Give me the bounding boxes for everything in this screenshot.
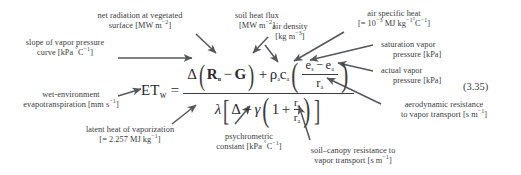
callout-wet-environment-line2: evapotranspiration [mm s−1] <box>4 100 138 110</box>
callout-air-specific-heat-line1: air specific heat <box>328 9 460 19</box>
inner-fraction-bar <box>302 74 338 75</box>
callout-soil-heat-flux-line1: soil heat flux <box>212 11 302 21</box>
callout-wet-environment-evapotranspiration: wet-environment evapotranspiration [mm s… <box>4 90 138 111</box>
net-radiation-symbol: Rn <box>207 66 221 83</box>
callout-actual-vapor-line2: pressure [kPa] <box>381 76 511 86</box>
plus-sign-resistance: + <box>279 101 292 118</box>
minus-sign: − <box>221 66 234 83</box>
callout-actual-vapor-pressure: actual vapor pressure [kPa] <box>381 66 511 87</box>
callout-saturation-vapor-line1: saturation vapor <box>381 40 511 50</box>
callout-air-density-line2: [kg m−3] <box>258 32 322 42</box>
saturation-vapor-symbol: es <box>306 58 314 72</box>
callout-aerodynamic-resistance-line2: to vapor transport [s m−1] <box>370 110 518 120</box>
one-constant: 1 <box>272 101 280 118</box>
resistance-fraction-bar <box>294 109 300 110</box>
callout-latent-heat-line2: [= 2.257 MJ kg−1] <box>62 135 198 145</box>
delta-symbol: Δ <box>187 66 197 83</box>
callout-soil-canopy-line2: vapor transport [s m−1] <box>280 156 426 166</box>
callout-air-specific-heat-line2: [= 10−3 MJ kg−1°C−1] <box>328 19 460 29</box>
callout-psychrometric-line1: psychrometric <box>196 132 302 142</box>
air-density-symbol: ρa <box>270 66 280 83</box>
resistance-ratio-fraction: rs ra <box>294 96 300 123</box>
numerator: Δ ( Rn − G ) + ρa ca ( es−ea ra ) <box>183 58 354 92</box>
callout-wet-environment-line1: wet-environment <box>4 90 138 100</box>
actual-vapor-symbol: ea <box>326 58 334 72</box>
vapor-deficit-fraction: es−ea ra <box>302 58 338 91</box>
callout-air-specific-heat: air specific heat [= 10−3 MJ kg−1°C−1] <box>328 9 460 30</box>
equation-lhs: ETw <box>141 82 170 99</box>
soil-heat-flux-symbol: G <box>234 66 246 83</box>
equals-sign: = <box>170 82 183 99</box>
callout-net-radiation-line2: surface [MW m−2] <box>80 21 200 31</box>
denominator: λ [ Δ + γ ( 1 + rs ra ) ] <box>211 95 327 123</box>
callout-air-density: air density [kg m−3] <box>258 22 322 43</box>
callout-slope-vapor-pressure-curve: slope of vapor pressure curve [kPa °C−1] <box>10 38 120 59</box>
callout-latent-heat-of-vaporization: latent heat of vaporization [= 2.257 MJ … <box>62 125 198 146</box>
callout-latent-heat-line1: latent heat of vaporization <box>62 125 198 135</box>
callout-actual-vapor-line1: actual vapor <box>381 66 511 76</box>
callout-slope-curve-line1: slope of vapor pressure <box>10 38 120 48</box>
gamma-symbol: γ <box>254 101 260 118</box>
callout-net-radiation-line1: net radiation at vegetated <box>80 11 200 21</box>
plus-sign-denominator: + <box>241 101 254 118</box>
air-specific-heat-symbol: ca <box>280 66 289 83</box>
callout-saturation-vapor-pressure: saturation vapor pressure [kPa] <box>381 40 511 61</box>
equation-expression: ETw = Δ ( Rn − G ) + ρa ca ( es−ea ra ) <box>141 58 354 123</box>
aerodynamic-resistance-symbol: ra <box>312 76 327 91</box>
callout-air-density-line1: air density <box>258 22 322 32</box>
callout-slope-curve-line2: curve [kPa °C−1] <box>10 48 120 58</box>
plus-sign: + <box>256 66 269 83</box>
arrow-net-radiation <box>196 34 216 53</box>
aerodynamic-resistance-symbol-denominator: ra <box>294 111 300 123</box>
vapor-deficit-numerator: es−ea <box>302 58 338 73</box>
delta-symbol-denominator: Δ <box>231 101 241 118</box>
equation-figure: ETw = Δ ( Rn − G ) + ρa ca ( es−ea ra ) <box>0 0 521 175</box>
callout-aerodynamic-resistance-line1: aerodynamic resistance <box>370 100 518 110</box>
callout-saturation-vapor-line2: pressure [kPa] <box>381 50 511 60</box>
callout-net-radiation: net radiation at vegetated surface [MW m… <box>80 11 200 32</box>
callout-aerodynamic-resistance: aerodynamic resistance to vapor transpor… <box>370 100 518 121</box>
soil-canopy-resistance-symbol: rs <box>294 96 300 108</box>
callout-soil-canopy-line1: soil–canopy resistance to <box>280 146 426 156</box>
callout-soil-canopy-resistance: soil–canopy resistance to vapor transpor… <box>280 146 426 167</box>
lambda-symbol: λ <box>215 101 222 118</box>
main-fraction: Δ ( Rn − G ) + ρa ca ( es−ea ra ) λ <box>183 58 354 123</box>
